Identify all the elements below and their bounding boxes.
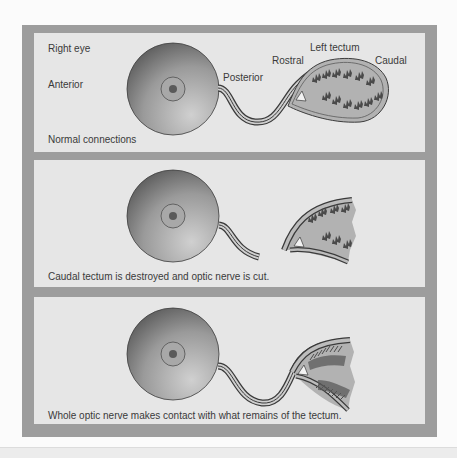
- tectum-remnant-regenerated: [292, 340, 355, 410]
- bottom-strip: [0, 447, 457, 458]
- optic-nerve-cut: [219, 225, 259, 257]
- tectum-normal: [288, 58, 388, 122]
- eye-regeneration: [127, 308, 219, 400]
- eye-lesion: [127, 170, 219, 262]
- tectum-remnant-lesion: [284, 200, 356, 262]
- eye-normal: [127, 43, 219, 135]
